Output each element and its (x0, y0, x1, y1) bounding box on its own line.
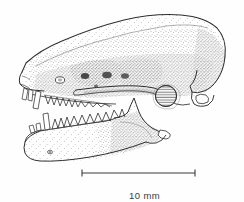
cranium-braincase (20, 12, 232, 106)
scale-bar-label: 10 mm (82, 179, 195, 202)
skull-illustration-figure: 10 mm (0, 0, 244, 202)
scale-bar (82, 170, 195, 177)
skull-drawing (0, 0, 244, 202)
orbit (55, 77, 64, 83)
scale-bar-label-text: 10 mm (129, 190, 160, 201)
